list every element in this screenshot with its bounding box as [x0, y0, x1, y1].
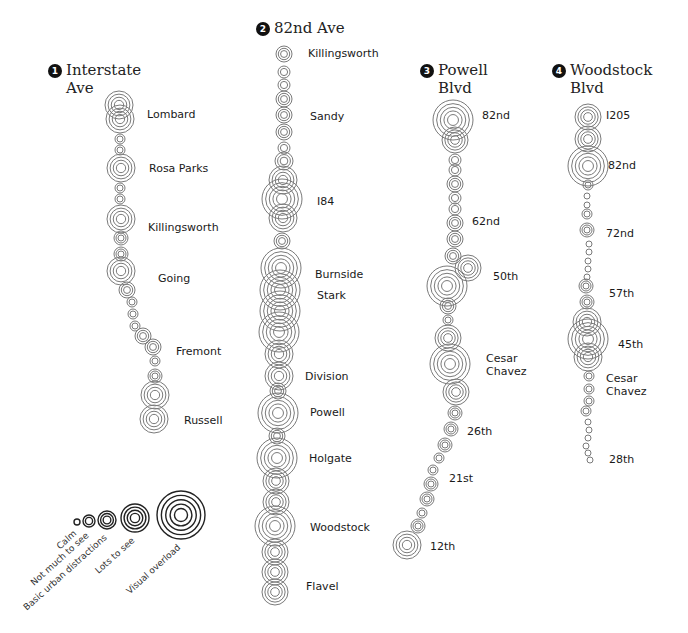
- stop-label: 21st: [449, 472, 473, 485]
- stop-label: Going: [158, 272, 190, 285]
- stop-label: I205: [606, 109, 630, 122]
- diagram-canvas: 1Interstate Ave 282nd Ave 3Powell Blvd 4…: [0, 0, 688, 633]
- stop-label: 28th: [609, 453, 634, 466]
- stop-label: Lombard: [147, 108, 195, 121]
- stop-label: 82nd: [608, 159, 636, 172]
- stop-label: Burnside: [315, 268, 363, 281]
- number-badge-icon: 1: [48, 64, 62, 78]
- number-badge-icon: 3: [420, 64, 434, 78]
- stop-label: Killingsworth: [148, 221, 219, 234]
- number-badge-icon: 4: [552, 64, 566, 78]
- stop-label: Rosa Parks: [149, 162, 208, 175]
- stop-label: Sandy: [310, 110, 344, 123]
- stop-label: 26th: [467, 425, 492, 438]
- stop-label: I84: [317, 195, 334, 208]
- stop-label: Killingsworth: [308, 47, 379, 60]
- stop-label: Holgate: [309, 452, 352, 465]
- stop-label: 72nd: [606, 227, 634, 240]
- route-title-82nd: 282nd Ave: [256, 19, 345, 37]
- stop-label: Russell: [184, 414, 222, 427]
- route-2-rings: [255, 46, 302, 605]
- stop-label: Flavel: [306, 580, 338, 593]
- route-title-woodstock: 4Woodstock Blvd: [552, 61, 652, 97]
- stop-label: Powell: [310, 406, 345, 419]
- stop-label: 45th: [618, 338, 643, 351]
- legend-rings: [74, 491, 205, 539]
- stop-label: Woodstock: [310, 521, 370, 534]
- stop-label: 57th: [609, 287, 634, 300]
- number-badge-icon: 2: [256, 22, 270, 36]
- stop-label: Division: [305, 370, 349, 383]
- route-4-rings: [568, 104, 608, 463]
- stop-label: Fremont: [176, 345, 221, 358]
- stop-label: 12th: [430, 540, 455, 553]
- route-3-rings: [393, 100, 481, 559]
- stop-label: 82nd: [482, 109, 510, 122]
- route-1-rings: [105, 91, 169, 433]
- route-title-interstate: 1Interstate Ave: [48, 61, 141, 97]
- stop-label: 62nd: [472, 215, 500, 228]
- route-title-powell: 3Powell Blvd: [420, 61, 488, 97]
- stop-label: 50th: [493, 270, 518, 283]
- stop-label: Stark: [317, 289, 346, 302]
- stop-label: Cesar Chavez: [486, 352, 526, 378]
- stop-label: Cesar Chavez: [606, 372, 646, 398]
